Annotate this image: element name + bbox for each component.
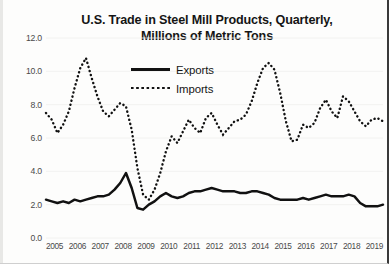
y-axis-tick-label: 4.0 (8, 166, 42, 176)
x-axis-tick-label: 2014 (252, 241, 269, 251)
chart-title-line-1: U.S. Trade in Steel Mill Products, Quart… (48, 12, 366, 28)
x-axis-tick-label: 2011 (183, 241, 200, 251)
x-axis-tick-label: 2012 (206, 241, 223, 251)
chart-legend: Exports Imports (128, 60, 278, 98)
y-axis-tick-label: 2.0 (8, 200, 42, 210)
x-axis-tick-label: 2010 (160, 241, 177, 251)
x-axis-tick-label: 2017 (320, 241, 337, 251)
x-axis-tick-label: 2008 (114, 241, 131, 251)
legend-line-exports-icon (128, 64, 173, 75)
y-axis: 0.02.04.06.08.010.012.0 (4, 38, 42, 238)
y-axis-tick-label: 0.0 (8, 233, 42, 243)
legend-item-imports: Imports (128, 79, 278, 98)
y-axis-tick-label: 12.0 (8, 33, 42, 43)
legend-label-exports: Exports (173, 64, 214, 76)
x-axis-tick-label: 2005 (46, 241, 63, 251)
legend-item-exports: Exports (128, 60, 278, 79)
x-axis-tick-label: 2009 (137, 241, 154, 251)
x-axis-tick-label: 2015 (274, 241, 291, 251)
series-line-exports (46, 173, 383, 210)
x-axis-tick-label: 2007 (92, 241, 109, 251)
x-axis-tick-label: 2016 (297, 241, 314, 251)
x-axis: 2005200620072008200920102011201220132014… (46, 241, 383, 257)
y-axis-tick-label: 10.0 (8, 66, 42, 76)
chart-figure: U.S. Trade in Steel Mill Products, Quart… (0, 0, 389, 264)
x-axis-tick-label: 2018 (343, 241, 360, 251)
legend-label-imports: Imports (173, 83, 213, 95)
x-axis-tick-label: 2013 (229, 241, 246, 251)
y-axis-tick-label: 8.0 (8, 100, 42, 110)
y-axis-tick-label: 6.0 (8, 133, 42, 143)
x-axis-tick-label: 2006 (69, 241, 86, 251)
legend-line-imports-icon (128, 83, 173, 94)
x-axis-tick-label: 2019 (366, 241, 383, 251)
